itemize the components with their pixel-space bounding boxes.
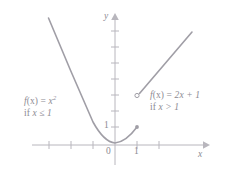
x-axis-arrowhead [203, 141, 210, 149]
y-axis-label: y [104, 11, 108, 21]
right-fn-body: 2x + 1 [175, 90, 200, 100]
right-fn-equals: = [164, 90, 174, 100]
origin-tick-label: 0 [106, 146, 111, 156]
right-fn-args: (x) [153, 90, 164, 100]
right-cond-body: x > 1 [158, 102, 179, 112]
left-fn-exponent: 2 [53, 94, 56, 101]
x-tick-label-1: 1 [134, 146, 139, 156]
y-axis-arrowhead [111, 13, 119, 20]
left-fn-args: (x) [27, 96, 38, 106]
annotation-right-piece: f(x) = 2x + 1 if x > 1 [150, 90, 200, 113]
parabola-curve [49, 18, 138, 143]
annotation-left-piece: f(x) = x2 if x ≤ 1 [24, 92, 56, 119]
left-cond-body: x ≤ 1 [32, 108, 51, 118]
left-fn-equals: = [38, 96, 48, 106]
piecewise-function-graph: y x 0 1 1 f(x) = x2 if x ≤ 1 f(x) = 2x +… [0, 0, 233, 176]
y-tick-label-1: 1 [104, 120, 109, 130]
open-endpoint-circle [135, 93, 139, 97]
linear-segment [140, 32, 193, 94]
x-axis-label: x [198, 149, 202, 159]
closed-endpoint-dot [135, 125, 139, 129]
